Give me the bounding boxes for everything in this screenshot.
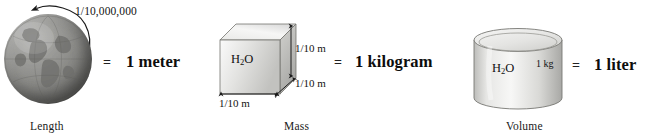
cylinder-mass-label: 1 kg bbox=[536, 58, 554, 69]
cube-width-label: 1/10 m bbox=[219, 97, 250, 109]
mass-equals-sign: = bbox=[334, 55, 342, 71]
length-result-label: 1 meter bbox=[126, 52, 180, 72]
cube-height-label: 1/10 m bbox=[295, 42, 326, 54]
panel-volume: H2O 1 kg = 1 liter Volume bbox=[446, 0, 646, 140]
panel-length: 1/10,000,000 bbox=[0, 0, 200, 140]
length-equals-sign: = bbox=[103, 55, 111, 71]
volume-result-label: 1 liter bbox=[594, 55, 636, 75]
panel-mass: H2O 1/10 m 1/10 m 1/10 m = 1 kilogram Ma… bbox=[200, 0, 446, 140]
cube-depth-label: 1/10 m bbox=[295, 77, 326, 89]
cube-substance-label: H2O bbox=[231, 52, 253, 67]
mass-caption: Mass bbox=[284, 120, 309, 132]
mass-result-label: 1 kilogram bbox=[355, 52, 433, 72]
globe-icon bbox=[4, 14, 92, 104]
length-caption: Length bbox=[30, 120, 64, 132]
water-cylinder-icon bbox=[468, 26, 568, 114]
si-units-figure: 1/10,000,000 bbox=[0, 0, 646, 140]
volume-equals-sign: = bbox=[572, 58, 580, 74]
cylinder-substance-label: H2O bbox=[492, 61, 514, 76]
volume-caption: Volume bbox=[506, 120, 543, 132]
